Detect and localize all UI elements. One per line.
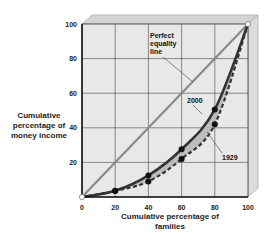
x-tick-label: 100 [242, 204, 254, 211]
endpoint-marker [245, 21, 250, 26]
data-point [145, 178, 151, 184]
y-tick-label: 100 [65, 21, 77, 28]
box-top-face [82, 15, 258, 24]
data-point [212, 106, 218, 112]
y-axis-label: Cumulative percentage of money income [2, 111, 76, 141]
y-tick-label: 60 [69, 90, 77, 97]
box-side-face [248, 15, 258, 197]
data-point [212, 121, 218, 127]
x-tick-label: 20 [111, 204, 119, 211]
label-2000: 2000 [187, 97, 203, 104]
x-tick-label: 0 [80, 204, 84, 211]
data-point [179, 146, 185, 152]
label-1929: 1929 [222, 154, 238, 161]
y-tick-label: 80 [69, 55, 77, 62]
origin-marker [79, 194, 84, 199]
y-tick-label: 20 [69, 159, 77, 166]
x-tick-label: 80 [211, 204, 219, 211]
data-point [112, 188, 118, 194]
x-axis-label: Cumulative percentage of families [120, 212, 220, 232]
x-tick-label: 40 [145, 204, 153, 211]
x-tick-label: 60 [178, 204, 186, 211]
data-point [145, 172, 151, 178]
data-point [179, 156, 185, 162]
